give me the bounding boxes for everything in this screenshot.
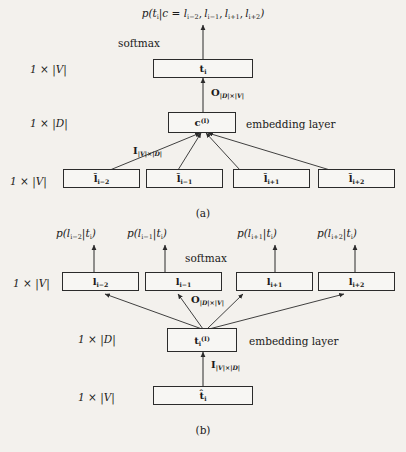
panel-a-dim-input: 1 × |V|: [10, 176, 47, 187]
panel-b-caption: (b): [0, 424, 406, 436]
panel-a-input-node-label-3: l̂i+1: [264, 173, 280, 184]
panel-b-input-weight-label: I|V|×|D|: [211, 360, 240, 370]
panel-b-input-node-box[interactable]: t̂i: [153, 386, 253, 405]
panel-a-input-node-box-1[interactable]: l̂i−2: [63, 169, 140, 188]
panel-b-hidden-node-label: ti(I): [194, 335, 210, 346]
panel-b-output-node-label-4: li+2: [349, 276, 365, 287]
panel-a-output-weight-label: O|D|×|V|: [211, 88, 244, 98]
panel-b-dim-hidden: 1 × |D|: [78, 334, 116, 345]
panel-b-output-node-label-3: li+1: [267, 276, 283, 287]
panel-b-output-weight-label: O|D|×|V|: [191, 295, 224, 305]
panel-a-input-node-label-1: l̂i−2: [94, 173, 110, 184]
panel-b-input-node-label: t̂i: [200, 390, 207, 401]
panel-a-dim-hidden: 1 × |D|: [30, 118, 68, 129]
panel-a-objective-formula: p(ti|c = li−2, li−1, li+1, li+2): [0, 8, 406, 19]
panel-a-input-node-label-2: l̂i−1: [177, 173, 193, 184]
panel-b-embedding-layer-label: embedding layer: [249, 336, 339, 347]
panel-a-dim-output: 1 × |V|: [30, 64, 67, 75]
panel-b-output-node-box-2[interactable]: li−1: [145, 272, 222, 291]
panel-b-objective-formula-4: p(li+2|ti): [317, 228, 357, 239]
panel-b-objective-formula-1: p(li−2|ti): [56, 228, 96, 239]
panel-a-hidden-node-box[interactable]: c(I): [168, 112, 236, 133]
panel-a-input-node-box-4[interactable]: l̂i+2: [318, 169, 395, 188]
panel-b-dim-input: 1 × |V|: [78, 392, 115, 403]
panel-a-input-node-box-2[interactable]: l̂i−1: [146, 169, 223, 188]
panel-b-objective-formula-2: p(li−1|ti): [127, 228, 167, 239]
panel-b-output-node-label-2: li−1: [176, 276, 192, 287]
panel-a-embedding-layer-label: embedding layer: [246, 119, 336, 130]
panel-a-caption: (a): [0, 207, 406, 219]
panel-b-softmax-label: softmax: [185, 253, 227, 264]
panel-a-input-weight-label: I|V|×|D|: [133, 146, 162, 156]
panel-a: p(ti|c = li−2, li−1, li+1, li+2) softmax…: [0, 0, 406, 226]
panel-b-dim-output: 1 × |V|: [13, 278, 50, 289]
panel-a-input-node-label-4: l̂i+2: [349, 173, 365, 184]
panel-b-objective-formula-3: p(li+1|ti): [237, 228, 277, 239]
panel-b-output-node-label-1: li−2: [93, 276, 109, 287]
panel-a-output-node-label: ti: [200, 63, 207, 74]
panel-a-output-node-box[interactable]: ti: [153, 59, 253, 78]
panel-a-softmax-label: softmax: [118, 38, 160, 49]
panel-b-output-node-box-4[interactable]: li+2: [318, 272, 395, 291]
panel-b-output-node-box-1[interactable]: li−2: [62, 272, 139, 291]
panel-b-output-node-box-3[interactable]: li+1: [236, 272, 313, 291]
panel-b-hidden-node-box[interactable]: ti(I): [167, 328, 237, 352]
panel-b: p(li−2|ti) p(li−1|ti) p(li+1|ti) p(li+2|…: [0, 226, 406, 452]
panel-a-hidden-node-label: c(I): [195, 117, 210, 128]
panel-a-input-node-box-3[interactable]: l̂i+1: [233, 169, 310, 188]
